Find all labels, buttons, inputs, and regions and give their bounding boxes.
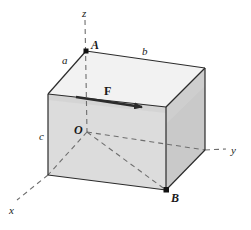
dimension-label-b: b: [142, 46, 148, 57]
point-label-A: A: [91, 39, 99, 51]
x-axis-dashed: [17, 175, 48, 200]
mechanics-figure: z y x a b c A O B F: [0, 0, 251, 230]
axis-label-y: y: [231, 145, 236, 156]
dimension-label-c: c: [39, 131, 44, 142]
dimension-label-a: a: [62, 55, 68, 66]
force-label-F: F: [104, 85, 111, 97]
point-marker-A: [84, 49, 89, 54]
y-axis-dashed: [205, 149, 226, 150]
point-label-O: O: [74, 124, 83, 136]
point-marker-B: [164, 187, 170, 193]
axis-label-z: z: [82, 8, 86, 19]
axis-label-x: x: [9, 205, 14, 216]
figure-canvas: [0, 0, 251, 230]
point-label-B: B: [171, 192, 179, 204]
